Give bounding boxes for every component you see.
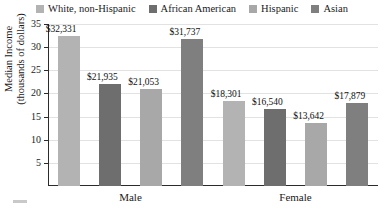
bar[interactable] xyxy=(58,36,80,186)
chart-legend: White, non-HispanicAfrican AmericanHispa… xyxy=(0,2,384,16)
page-artifact-mark xyxy=(13,200,27,203)
x-axis-group-label-male: Male xyxy=(91,191,171,203)
x-axis-group-label-female: Female xyxy=(256,191,336,203)
bar-value-label: $18,301 xyxy=(211,89,242,99)
legend-swatch-icon xyxy=(149,5,157,13)
bar-value-label: $17,879 xyxy=(334,91,365,101)
legend-item-2[interactable]: Hispanic xyxy=(249,4,298,15)
legend-swatch-icon xyxy=(36,5,44,13)
legend-swatch-icon xyxy=(311,5,319,13)
y-axis-title: Median Income (thousands of dollars) xyxy=(3,0,27,134)
bar-series-container: $32,331$21,935$21,053$31,737$18,301$16,5… xyxy=(48,24,378,186)
legend-item-1[interactable]: African American xyxy=(149,4,237,15)
legend-label: Hispanic xyxy=(261,4,298,15)
bar-chart: White, non-HispanicAfrican AmericanHispa… xyxy=(0,0,384,211)
y-tick-label: 20 xyxy=(31,87,41,98)
bar-value-label: $21,935 xyxy=(87,72,118,82)
bar[interactable] xyxy=(140,89,162,186)
legend-item-0[interactable]: White, non-Hispanic xyxy=(36,4,135,15)
legend-label: Asian xyxy=(323,4,348,15)
bar[interactable] xyxy=(264,109,286,186)
bar-value-label: $32,331 xyxy=(46,24,77,34)
legend-swatch-icon xyxy=(249,5,257,13)
y-tick-label: 30 xyxy=(31,41,41,52)
bar-value-label: $31,737 xyxy=(169,27,200,37)
bar-value-label: $21,053 xyxy=(128,77,159,87)
y-tick-label: 25 xyxy=(31,64,41,75)
bar-value-label: $16,540 xyxy=(252,97,283,107)
bar-value-label: $13,642 xyxy=(293,111,324,121)
y-tick-label: 35 xyxy=(31,18,41,29)
y-tick-label: 5 xyxy=(36,157,41,168)
y-axis-title-line2: (thousands of dollars) xyxy=(15,0,27,134)
y-axis-title-line1: Median Income xyxy=(3,26,14,92)
legend-item-3[interactable]: Asian xyxy=(311,4,348,15)
legend-label: White, non-Hispanic xyxy=(48,4,135,15)
bar[interactable] xyxy=(181,39,203,186)
bar[interactable] xyxy=(305,123,327,186)
bar[interactable] xyxy=(346,103,368,186)
bar[interactable] xyxy=(223,101,245,186)
legend-label: African American xyxy=(161,4,237,15)
bar[interactable] xyxy=(99,84,121,186)
y-tick-label: 15 xyxy=(31,111,41,122)
y-tick-label: 10 xyxy=(31,134,41,145)
